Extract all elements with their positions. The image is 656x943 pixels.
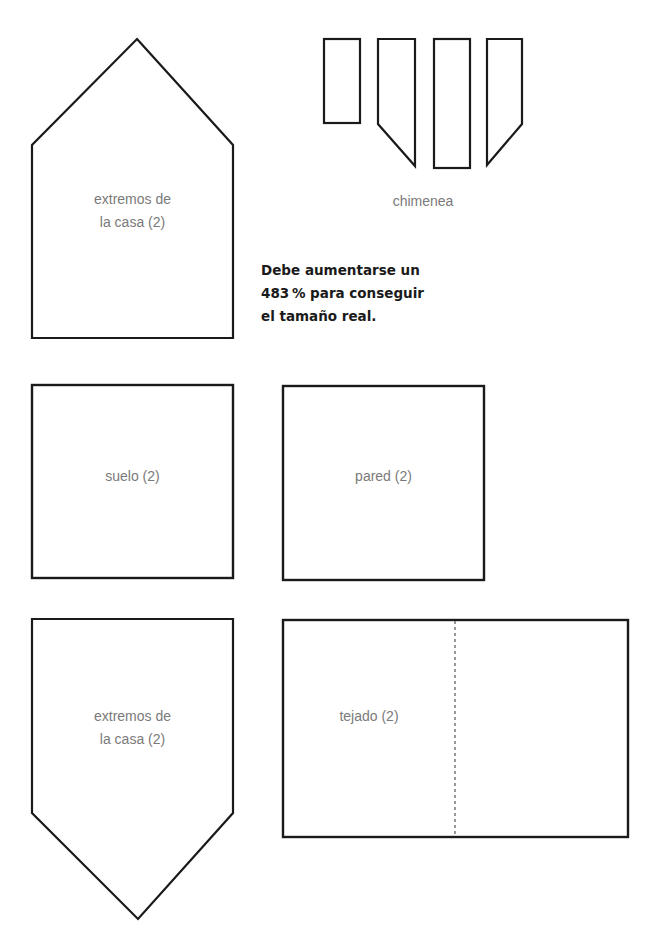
house-end-bottom-label-line2: la casa (2) bbox=[32, 728, 233, 751]
house-end-top-label-line1: extremos de bbox=[32, 188, 233, 211]
scale-note: Debe aumentarse un 483 % para conseguir … bbox=[261, 259, 424, 328]
chimney-piece-1-outline bbox=[324, 39, 360, 123]
scale-note-line3: el tamaño real. bbox=[261, 305, 424, 328]
house-end-bottom-outline bbox=[32, 619, 233, 919]
house-end-bottom-label-line1: extremos de bbox=[32, 705, 233, 728]
house-end-top-label: extremos de la casa (2) bbox=[32, 188, 233, 234]
scale-note-line1: Debe aumentarse un bbox=[261, 259, 424, 282]
house-end-bottom-label: extremos de la casa (2) bbox=[32, 705, 233, 751]
wall-label: pared (2) bbox=[283, 465, 484, 488]
chimney-label: chimenea bbox=[360, 190, 486, 213]
roof-label: tejado (2) bbox=[283, 705, 455, 728]
floor-label: suelo (2) bbox=[32, 465, 233, 488]
chimney-piece-3-outline bbox=[434, 39, 470, 168]
chimney-piece-2-outline bbox=[378, 39, 415, 166]
chimney-piece-4-outline bbox=[487, 39, 522, 165]
house-end-top-label-line2: la casa (2) bbox=[32, 211, 233, 234]
scale-note-line2: 483 % para conseguir bbox=[261, 282, 424, 305]
